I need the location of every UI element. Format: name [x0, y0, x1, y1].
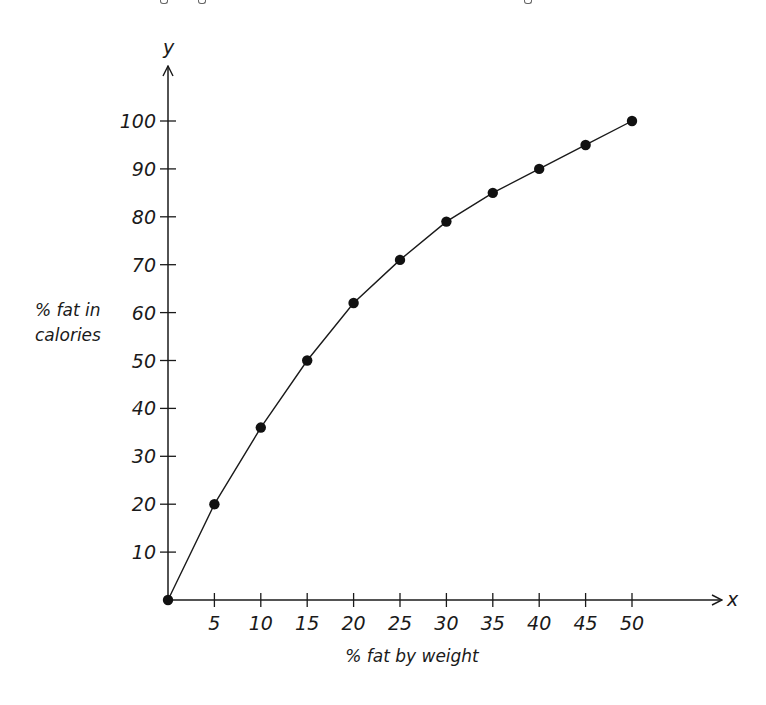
y-tick-label: 60 — [132, 302, 156, 324]
axis-ticks — [160, 121, 632, 607]
data-point — [163, 595, 173, 605]
y-axis-title-line-1: % fat in — [35, 300, 101, 320]
line-chart-plot: xy51015202530354045501020304050607080901… — [0, 0, 766, 705]
x-tick-label: 40 — [527, 612, 551, 634]
y-tick-label: 70 — [132, 254, 156, 276]
x-tick-label: 25 — [388, 612, 412, 634]
x-tick-label: 20 — [342, 612, 366, 634]
x-tick-label: 10 — [249, 612, 273, 634]
axis-labels: xy51015202530354045501020304050607080901… — [35, 36, 739, 666]
data-series — [163, 116, 637, 605]
data-point — [488, 188, 498, 198]
y-tick-label: 20 — [132, 493, 156, 515]
y-axis-variable-label: y — [162, 36, 175, 58]
y-tick-label: 30 — [132, 445, 156, 467]
y-axis-title-line-2: calories — [35, 325, 101, 345]
y-tick-label: 100 — [120, 110, 156, 132]
y-tick-label: 80 — [132, 206, 156, 228]
data-line — [168, 121, 632, 600]
y-tick-label: 10 — [132, 541, 156, 563]
data-point — [580, 140, 590, 150]
y-tick-label: 50 — [132, 350, 156, 372]
x-axis-title: % fat by weight — [345, 646, 480, 666]
data-point — [348, 298, 358, 308]
y-tick-label: 40 — [132, 397, 156, 419]
data-point — [256, 422, 266, 432]
x-tick-label: 35 — [481, 612, 505, 634]
x-tick-label: 50 — [620, 612, 644, 634]
data-point — [209, 499, 219, 509]
x-tick-label: 30 — [434, 612, 458, 634]
chart: xy51015202530354045501020304050607080901… — [0, 0, 766, 705]
data-point — [627, 116, 637, 126]
x-tick-label: 45 — [574, 612, 598, 634]
x-tick-label: 5 — [208, 612, 220, 634]
x-axis-variable-label: x — [726, 588, 739, 610]
axes — [168, 66, 722, 600]
data-point — [395, 255, 405, 265]
y-tick-label: 90 — [132, 158, 156, 180]
x-tick-label: 15 — [295, 612, 319, 634]
data-point — [534, 164, 544, 174]
data-point — [441, 216, 451, 226]
data-point — [302, 355, 312, 365]
